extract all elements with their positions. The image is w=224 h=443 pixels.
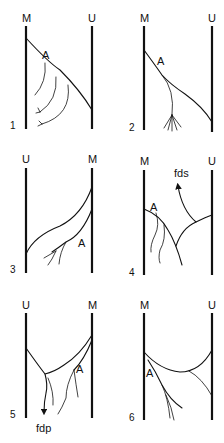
branch-fan <box>164 115 181 131</box>
main-vessel <box>144 50 212 122</box>
panel-number: 2 <box>129 122 135 133</box>
second-vessel <box>52 209 92 252</box>
right-label: U <box>208 155 216 167</box>
panel-number: 3 <box>10 264 16 275</box>
right-label: M <box>88 299 97 311</box>
panel-6: M U A 6 <box>129 299 216 423</box>
branch-vessel <box>36 77 56 113</box>
right-label: U <box>208 299 216 311</box>
panel-1: M U A 1 <box>10 12 96 131</box>
vessel-label: A <box>150 201 158 213</box>
vessel-label: A <box>157 55 165 67</box>
main-vessel <box>26 38 92 110</box>
branch-vessel <box>35 63 45 95</box>
vessel-label: A <box>78 237 86 249</box>
panel-4: M U A fds 4 <box>129 155 216 278</box>
branch-vessel <box>38 85 68 126</box>
arrow-label: fds <box>174 167 189 179</box>
right-label: U <box>88 12 96 24</box>
left-label: M <box>140 12 149 24</box>
vessel-label: A <box>42 49 50 61</box>
left-label: U <box>22 153 30 165</box>
branch-vessel <box>162 385 174 420</box>
main-vessel <box>144 209 182 265</box>
right-label: U <box>208 12 216 24</box>
left-label: U <box>22 299 30 311</box>
left-label: M <box>140 299 149 311</box>
panel-3: U M A 3 <box>10 153 97 275</box>
panel-number: 1 <box>10 120 16 131</box>
panel-number: 5 <box>10 409 16 420</box>
fds-arrow <box>178 186 196 222</box>
branch-vessel <box>44 242 66 265</box>
panel-2: M U A 2 <box>129 12 216 133</box>
branch-vessel <box>58 370 74 414</box>
branch-vessel <box>159 225 165 263</box>
branch-vessel <box>48 378 53 405</box>
panel-number: 4 <box>129 267 135 278</box>
branch-vessel <box>151 213 158 252</box>
vessel-diagram: M U A 1 M U A 2 U M A 3 M U A <box>0 0 224 443</box>
panel-5: U M A fdp 5 <box>10 299 97 434</box>
vessel-label: A <box>146 367 154 379</box>
left-label: M <box>22 12 31 24</box>
panel-number: 6 <box>129 412 135 423</box>
main-vessel <box>144 350 212 372</box>
left-label: M <box>140 155 149 167</box>
right-label: M <box>88 153 97 165</box>
fdp-arrow <box>26 348 47 412</box>
vessel-label: A <box>76 363 84 375</box>
right-branch-vessel <box>189 371 212 396</box>
arrow-label: fdp <box>36 422 51 434</box>
